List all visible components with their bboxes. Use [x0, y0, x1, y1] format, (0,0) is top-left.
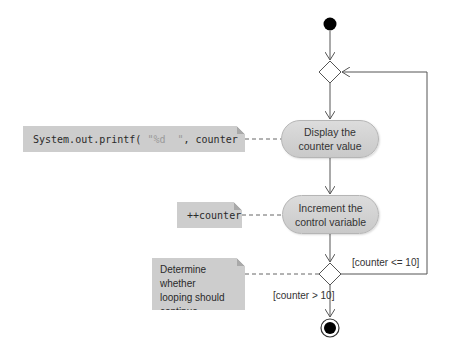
note-printf-suffix: , counter );	[184, 134, 256, 145]
initial-node-icon	[324, 18, 337, 31]
note-decision-line2: looping should	[160, 291, 237, 305]
action-increment-counter: Increment the control variable	[282, 195, 379, 234]
merge-node-icon	[319, 61, 341, 83]
action-display-line2: counter value	[298, 139, 361, 153]
action-display-line1: Display the	[298, 125, 361, 139]
guard-exit: [counter > 10]	[273, 290, 334, 301]
action-increment-line2: control variable	[295, 215, 366, 229]
decision-node-icon	[319, 263, 341, 285]
note-increment-code: ++counter	[177, 202, 242, 228]
note-increment-text: ++counter	[187, 210, 241, 221]
action-display-counter: Display the counter value	[281, 120, 379, 158]
note-printf-prefix: System.out.printf(	[33, 134, 147, 145]
action-increment-line1: Increment the	[295, 201, 366, 215]
note-printf-string: "%d "	[147, 134, 183, 145]
note-printf-code: System.out.printf( "%d ", counter );	[23, 126, 245, 152]
note-decision-line1: Determine whether	[160, 263, 237, 291]
guard-loop: [counter <= 10]	[352, 257, 419, 268]
note-decision: Determine whether looping should continu…	[152, 258, 245, 310]
